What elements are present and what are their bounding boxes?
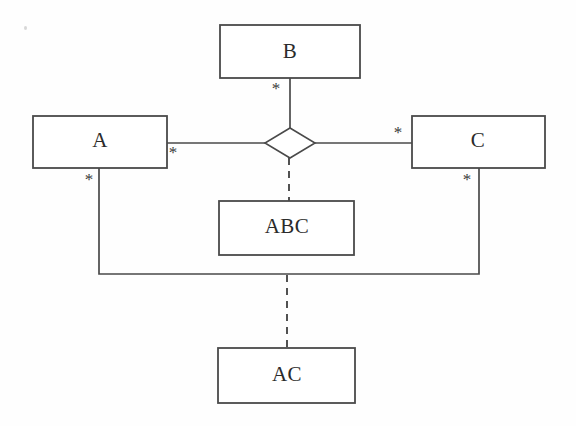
multiplicity-c-down: * — [463, 170, 472, 189]
multiplicity-a-down: * — [85, 170, 94, 189]
entity-label-abc: ABC — [265, 214, 310, 238]
diagram-canvas: B A C ABC AC * * * * * — [0, 0, 576, 426]
entity-box-c[interactable]: C — [412, 116, 545, 168]
entity-label-a: A — [92, 128, 108, 152]
entity-label-ac: AC — [272, 362, 302, 386]
association-diamond-icon[interactable] — [265, 128, 315, 158]
multiplicity-a-end: * — [169, 143, 178, 162]
entity-box-b[interactable]: B — [220, 25, 360, 78]
multiplicity-c-end: * — [394, 123, 403, 142]
uml-diagram: B A C ABC AC * * * * * — [0, 0, 576, 426]
entity-box-ac[interactable]: AC — [218, 348, 355, 403]
entity-box-abc[interactable]: ABC — [219, 201, 354, 255]
multiplicity-b-end: * — [272, 79, 281, 98]
entity-box-a[interactable]: A — [33, 116, 167, 168]
entity-label-c: C — [471, 128, 486, 152]
entity-label-b: B — [283, 39, 298, 63]
